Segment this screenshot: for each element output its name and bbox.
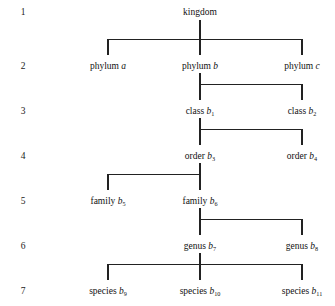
node-species-b11-subscript: 11 — [316, 290, 322, 297]
connector-order-b3-drop — [199, 129, 200, 145]
connector-class-b1-drop — [199, 84, 200, 100]
node-kingdom: kingdom — [183, 8, 217, 18]
connector-order-bar — [199, 129, 302, 130]
connector-phylum-b-drop — [199, 39, 200, 55]
node-family-b6: family b6 — [182, 197, 217, 207]
node-genus-b7-taxon: genus — [184, 241, 206, 251]
connector-species-b9-drop — [107, 264, 108, 280]
node-species-b9: species b9 — [89, 287, 127, 297]
node-species-b9-taxon: species — [89, 286, 116, 296]
level-number-4: 4 — [16, 152, 30, 162]
node-order-b3-subscript: 3 — [212, 155, 215, 162]
node-phylum-a-symbol: a — [121, 61, 126, 71]
taxonomy-tree-diagram: 1 2 3 4 5 6 7 kingdom phylum a phylum b — [0, 0, 335, 306]
level-number-5: 5 — [16, 197, 30, 207]
level-number-2: 2 — [16, 62, 30, 72]
node-species-b10: species b10 — [180, 287, 221, 297]
node-phylum-b-symbol: b — [213, 61, 218, 71]
node-species-b10-subscript: 10 — [214, 290, 220, 297]
connector-genus-b7-drop — [199, 219, 200, 235]
connector-family-bar — [107, 174, 200, 175]
node-phylum-a: phylum a — [90, 62, 126, 72]
node-class-b2: class b2 — [288, 107, 317, 117]
connector-kingdom-stem — [199, 20, 200, 40]
node-kingdom-taxon: kingdom — [183, 7, 217, 17]
node-class-b1: class b1 — [186, 107, 215, 117]
node-class-b2-subscript: 2 — [313, 110, 316, 117]
node-genus-b8-taxon: genus — [286, 241, 308, 251]
node-order-b3: order b3 — [185, 152, 215, 162]
connector-genus-bar — [199, 219, 302, 220]
node-species-b10-symbol: b — [209, 286, 214, 296]
node-class-b1-taxon: class — [186, 106, 204, 116]
node-phylum-c: phylum c — [284, 62, 320, 72]
connector-family-b6-drop — [199, 174, 200, 190]
connector-species-bar — [107, 264, 302, 265]
connector-family-b5-drop — [107, 174, 108, 190]
node-phylum-b: phylum b — [182, 62, 218, 72]
node-family-b6-subscript: 6 — [214, 200, 217, 207]
node-species-b9-subscript: 9 — [124, 290, 127, 297]
node-species-b9-symbol: b — [119, 286, 124, 296]
node-phylum-a-taxon: phylum — [90, 61, 119, 71]
node-order-b4: order b4 — [287, 152, 317, 162]
connector-phylum-a-drop — [107, 39, 108, 55]
node-phylum-b-taxon: phylum — [182, 61, 211, 71]
node-phylum-c-taxon: phylum — [284, 61, 313, 71]
node-order-b4-subscript: 4 — [314, 155, 317, 162]
connector-class-bar — [199, 84, 302, 85]
connector-species-b11-drop — [301, 264, 302, 280]
node-genus-b7-subscript: 7 — [213, 245, 216, 252]
level-number-3: 3 — [16, 107, 30, 117]
connector-genus-b8-drop — [301, 219, 302, 235]
node-genus-b7: genus b7 — [184, 242, 216, 252]
connector-class-b2-drop — [301, 84, 302, 100]
connector-species-b10-drop — [199, 264, 200, 280]
level-number-7: 7 — [16, 287, 30, 297]
node-family-b6-taxon: family — [182, 196, 207, 206]
connector-phylum-c-drop — [301, 39, 302, 55]
node-class-b2-taxon: class — [288, 106, 306, 116]
node-phylum-c-symbol: c — [316, 61, 320, 71]
node-species-b11: species b11 — [282, 287, 323, 297]
node-family-b5: family b5 — [90, 197, 125, 207]
node-species-b10-taxon: species — [180, 286, 207, 296]
level-number-1: 1 — [16, 8, 30, 18]
node-family-b5-subscript: 5 — [122, 200, 125, 207]
node-species-b11-symbol: b — [312, 286, 317, 296]
node-order-b3-taxon: order — [185, 151, 205, 161]
level-number-6: 6 — [16, 242, 30, 252]
connector-order-b4-drop — [301, 129, 302, 145]
node-class-b1-symbol: b — [207, 106, 212, 116]
node-genus-b8-subscript: 8 — [315, 245, 318, 252]
node-class-b1-subscript: 1 — [211, 110, 214, 117]
node-class-b2-symbol: b — [309, 106, 314, 116]
node-order-b4-taxon: order — [287, 151, 307, 161]
node-family-b5-taxon: family — [90, 196, 115, 206]
node-genus-b8: genus b8 — [286, 242, 318, 252]
node-species-b11-taxon: species — [282, 286, 309, 296]
connector-kingdom-bar — [107, 39, 302, 40]
